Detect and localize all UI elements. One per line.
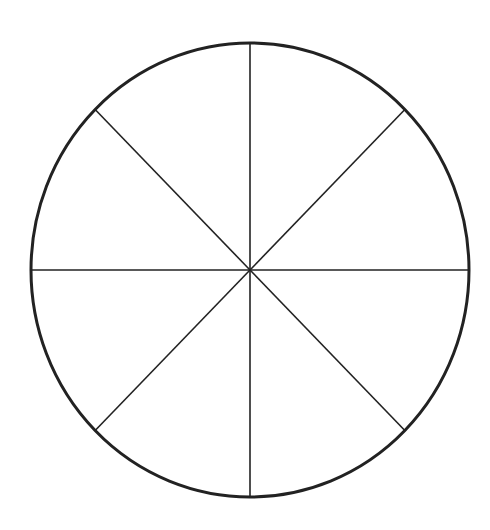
sector-dividers xyxy=(31,43,469,497)
eight-sector-circle-diagram xyxy=(0,0,490,530)
sector-divider-line xyxy=(250,109,405,270)
sector-divider-line xyxy=(95,109,250,270)
sector-divider-line xyxy=(95,270,250,431)
sector-divider-line xyxy=(250,270,405,431)
